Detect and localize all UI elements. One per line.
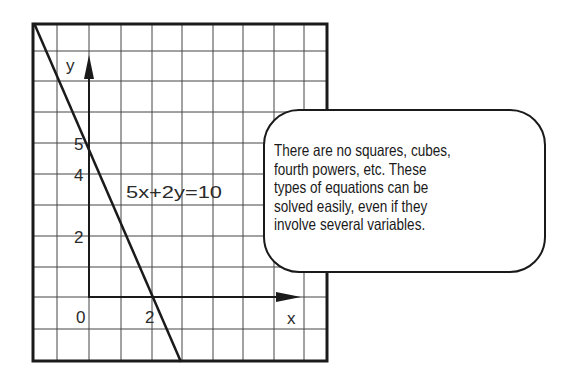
y-axis-label: y — [66, 56, 75, 75]
y-tick-4: 4 — [74, 166, 83, 185]
x-axis-label: x — [287, 309, 296, 328]
x-tick-0: 0 — [76, 308, 85, 327]
callout-line: involve several variables. — [274, 215, 495, 234]
callout-line: types of equations can be — [274, 178, 495, 197]
callout-line: There are no squares, cubes, — [274, 141, 495, 160]
x-axis — [88, 292, 301, 302]
equation-label: 5x+2y=10 — [126, 183, 222, 202]
callout-line: fourth powers, etc. These — [274, 160, 495, 179]
y-axis — [84, 55, 94, 298]
y-tick-2: 2 — [74, 228, 83, 247]
x-axis-arrow-icon — [276, 292, 301, 302]
x-tick-2: 2 — [145, 308, 154, 327]
callout-text: There are no squares, cubes, fourth powe… — [274, 141, 495, 234]
callout-line: solved easily, even if they — [274, 197, 495, 216]
y-tick-5: 5 — [74, 135, 83, 154]
callout-bubble: There are no squares, cubes, fourth powe… — [263, 109, 546, 273]
y-axis-arrow-icon — [84, 55, 94, 79]
